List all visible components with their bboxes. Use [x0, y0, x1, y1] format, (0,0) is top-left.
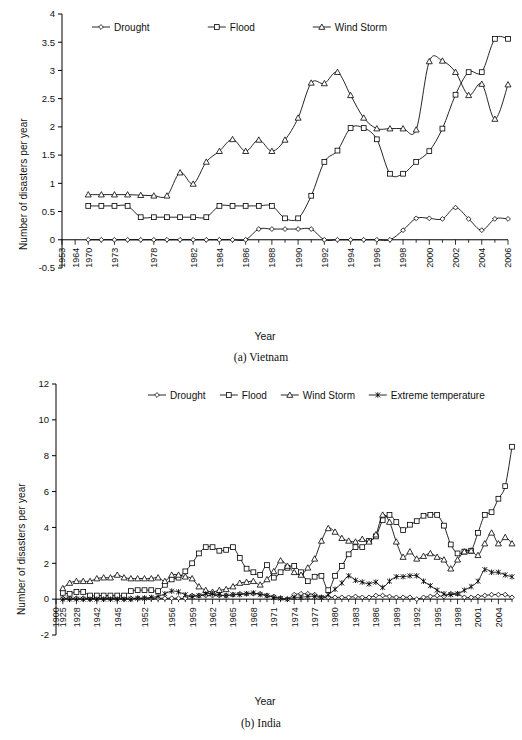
x-tick-label: 1962	[208, 607, 218, 627]
data-point-square	[165, 215, 170, 220]
data-point-square	[217, 204, 222, 209]
legend-marker-diamond	[155, 393, 160, 398]
data-point-diamond	[435, 593, 440, 598]
data-point-square	[138, 215, 143, 220]
data-point-triangle	[434, 554, 440, 559]
data-point-diamond	[388, 237, 393, 242]
data-point-diamond	[178, 237, 183, 242]
x-tick-label: 1986	[371, 607, 381, 627]
x-tick-label: 1945	[113, 607, 123, 627]
legend-item-drought[interactable]: Drought	[92, 22, 150, 33]
x-tick-label: 1928	[72, 607, 82, 627]
legend-item-wind-storm[interactable]: Wind Storm	[313, 22, 387, 33]
data-point-diamond	[492, 216, 497, 221]
y-tick-label: 0	[44, 593, 49, 604]
y-tick-label: 2	[50, 121, 55, 132]
data-point-triangle	[502, 534, 508, 539]
legend-item-flood[interactable]: Flood	[208, 22, 255, 33]
data-point-square	[203, 545, 208, 550]
data-point-square	[394, 520, 399, 525]
data-point-triangle	[421, 553, 427, 558]
data-point-star	[435, 587, 440, 593]
data-point-square	[112, 204, 117, 209]
data-point-diamond	[151, 237, 156, 242]
data-point-square	[204, 215, 209, 220]
y-axis-label-b: Number of disasters per year	[16, 483, 27, 615]
y-tick-label: 2.5	[42, 93, 55, 104]
series-drought	[86, 205, 511, 242]
panel-vietnam: Number of disasters per year -0.500.511.…	[0, 0, 522, 370]
data-point-square	[339, 564, 344, 569]
data-point-diamond	[204, 237, 209, 242]
y-tick-label: 3	[50, 65, 55, 76]
data-point-square	[309, 193, 314, 198]
x-tick-label: 1998	[398, 248, 408, 268]
legend: DroughtFloodWind Storm	[92, 22, 387, 33]
data-point-triangle	[348, 92, 354, 97]
x-tick-label: 1977	[310, 607, 320, 627]
data-point-diamond	[230, 237, 235, 242]
data-point-triangle	[230, 584, 236, 589]
data-point-square	[466, 70, 471, 75]
legend-item-flood[interactable]: Flood	[220, 390, 267, 401]
data-point-square	[81, 590, 86, 595]
data-point-triangle	[67, 580, 73, 585]
data-point-star	[428, 583, 433, 589]
series-wind-storm	[85, 56, 511, 198]
data-point-square	[283, 216, 288, 221]
data-point-triangle	[393, 539, 399, 544]
x-tick-label: 1980	[330, 607, 340, 627]
data-point-diamond	[243, 237, 248, 242]
data-point-triangle	[482, 541, 488, 546]
legend-item-extreme-temperature[interactable]: Extreme temperature	[369, 390, 485, 401]
x-tick-label: 1986	[241, 248, 251, 268]
data-point-square	[492, 36, 497, 41]
legend-label: Flood	[242, 390, 267, 401]
data-point-square	[440, 126, 445, 131]
data-point-square	[482, 512, 487, 517]
y-tick-label: 0	[50, 234, 55, 245]
data-point-diamond	[387, 594, 392, 599]
figure-container: Number of disasters per year -0.500.511.…	[0, 0, 522, 740]
data-point-square	[479, 70, 484, 75]
data-point-diamond	[453, 205, 458, 210]
data-point-diamond	[482, 593, 487, 598]
data-point-star	[503, 572, 508, 578]
data-point-diamond	[506, 216, 511, 221]
x-tick-label: 1964	[71, 248, 81, 268]
data-point-diamond	[191, 237, 196, 242]
data-point-triangle	[256, 137, 262, 142]
data-point-square	[506, 36, 511, 41]
data-point-square	[230, 204, 235, 209]
x-tick-label: 1959	[188, 607, 198, 627]
data-point-square	[86, 204, 91, 209]
chart-india: -202468101219001925192819421945195219561…	[0, 370, 522, 695]
data-point-square	[142, 588, 147, 593]
legend-label: Flood	[230, 22, 255, 33]
data-point-square	[348, 126, 353, 131]
series-line	[88, 208, 508, 241]
x-tick-label: 1996	[372, 248, 382, 268]
data-point-diamond	[427, 216, 432, 221]
legend: DroughtFloodWind StormExtreme temperatur…	[148, 390, 485, 401]
data-point-diamond	[414, 216, 419, 221]
data-point-square	[135, 588, 140, 593]
legend-item-wind-storm[interactable]: Wind Storm	[281, 390, 355, 401]
data-point-square	[319, 573, 324, 578]
x-tick-label: 2002	[451, 248, 461, 268]
x-tick-label: 1968	[249, 607, 259, 627]
series-flood	[60, 444, 514, 598]
x-tick-label: 1953	[57, 248, 67, 268]
legend-marker-diamond	[99, 25, 104, 30]
data-point-diamond	[476, 594, 481, 599]
x-tick-label: 1973	[110, 248, 120, 268]
legend-item-drought[interactable]: Drought	[148, 390, 206, 401]
caption-b: (b) India	[0, 717, 522, 729]
data-point-star	[326, 592, 331, 598]
data-point-square	[99, 204, 104, 209]
data-point-square	[427, 149, 432, 154]
data-point-diamond	[335, 237, 340, 242]
data-point-diamond	[496, 592, 501, 597]
data-point-square	[442, 523, 447, 528]
y-tick-label: 4	[50, 8, 55, 19]
